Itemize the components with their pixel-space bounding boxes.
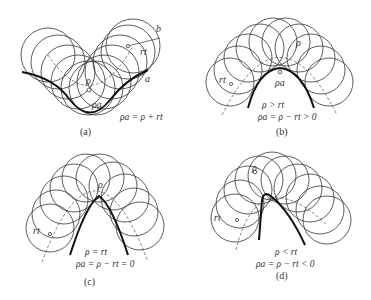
panel-b-label-rt: rt: [219, 75, 226, 85]
panel-c-label-rho: ρ: [98, 180, 103, 190]
panel-a-label-rho: ρ: [86, 76, 91, 86]
cutter-envelope-figure: b a rt ρ ρa ρa = ρ + rt (a) rt ρ ρa ρ > …: [0, 0, 371, 300]
panel-d-label-rt: rt: [214, 213, 221, 223]
panel-a-label-rho-a: ρa: [92, 100, 102, 110]
panel-a-label-b: b: [156, 24, 161, 34]
panel-d-label-rho: ρ: [252, 163, 257, 173]
panel-d-equation-1: ρ < rt: [275, 247, 297, 258]
panel-c-circles: [26, 154, 164, 252]
figure-drawing: [0, 0, 371, 300]
panel-c-label-rt: rt: [33, 226, 40, 236]
panel-a-caption: (a): [80, 127, 91, 137]
panel-c-equation-1: ρ = rt: [85, 247, 107, 258]
panel-c-equation-2: ρa = ρ − rt = 0: [76, 259, 134, 270]
panel-b-equation-2: ρa = ρ − rt > 0: [258, 112, 316, 123]
panel-a-label-rt: rt: [140, 47, 147, 57]
panel-a-equation-1: ρa = ρ + rt: [120, 112, 163, 123]
panel-c-caption: (c): [84, 277, 95, 287]
panel-b-label-rho-a: ρa: [275, 78, 285, 88]
panel-b-caption: (b): [276, 127, 288, 137]
panel-b-label-rho: ρ: [296, 38, 301, 48]
panel-d-equation-2: ρa = ρ − rt < 0: [256, 259, 314, 270]
panel-d-caption: (d): [276, 271, 288, 281]
panel-a-label-a: a: [145, 74, 150, 84]
panel-b-equation-1: ρ > rt: [262, 100, 284, 111]
panel-a-circles: [21, 19, 160, 115]
panel-b-circles: [206, 18, 353, 106]
